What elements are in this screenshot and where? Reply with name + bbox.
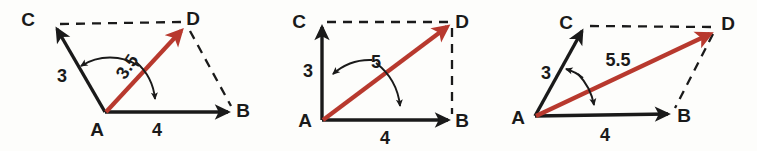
point-label-d-1: D: [186, 8, 200, 29]
angle-arc-to-ac-3: [566, 69, 583, 78]
magnitude-label-ab-3: 4: [600, 125, 610, 145]
dashed-side-bd-1: [190, 31, 231, 106]
point-label-b-2: B: [455, 110, 469, 131]
point-label-c-2: C: [292, 11, 306, 32]
point-label-a-2: A: [298, 110, 312, 131]
dashed-side-bd-3: [675, 34, 713, 108]
magnitude-label-ab-1: 4: [152, 120, 162, 140]
diagram-1: C D A B 3 4 3.5: [21, 8, 250, 140]
magnitude-label-resultant-2: 5: [371, 52, 381, 72]
dashed-side-cd-1: [60, 22, 181, 24]
point-label-c-1: C: [21, 9, 35, 30]
diagram-3: C D A B 3 4 5.5: [511, 12, 735, 145]
diagram-2: C D A B 3 4 5: [292, 11, 469, 148]
point-label-a-3: A: [511, 107, 525, 128]
dashed-side-cd-3: [590, 26, 711, 27]
magnitude-label-ac-3: 3: [541, 63, 551, 83]
point-label-d-2: D: [455, 11, 469, 32]
point-label-b-3: B: [677, 105, 691, 126]
figure-canvas: C D A B 3 4 3.5 C D A: [0, 0, 757, 151]
vector-diagrams-svg: C D A B 3 4 3.5 C D A: [0, 0, 757, 151]
magnitude-label-ac-1: 3: [57, 66, 67, 86]
angle-arc-to-ac-2: [333, 60, 372, 74]
point-label-d-3: D: [721, 13, 735, 34]
vector-ab-3: [535, 114, 668, 116]
point-label-a-1: A: [90, 119, 104, 140]
magnitude-label-resultant-3: 5.5: [605, 50, 630, 70]
magnitude-label-ac-2: 3: [303, 61, 313, 81]
magnitude-label-ab-2: 4: [380, 128, 390, 148]
point-label-b-1: B: [236, 100, 250, 121]
resultant-vector-ad-2: [323, 27, 447, 120]
resultant-vector-ad-3: [536, 34, 710, 116]
point-label-c-3: C: [559, 12, 573, 33]
